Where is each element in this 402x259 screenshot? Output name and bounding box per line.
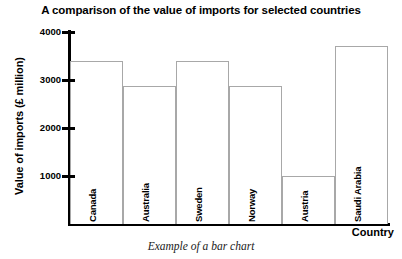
bar-chart-figure: A comparison of the value of imports for… (0, 0, 402, 259)
figure-caption: Example of a bar chart (0, 240, 402, 252)
y-axis-tick (62, 127, 75, 130)
bar[interactable]: Sweden (176, 61, 229, 224)
bar-category-label-text: Norway (247, 189, 257, 222)
bar-category-label: Norway (230, 142, 283, 222)
bar-category-label-text: Sweden (194, 187, 204, 222)
bar-category-label-text: Austria (300, 191, 310, 222)
bar[interactable]: Saudi Arabia (335, 46, 388, 224)
bar[interactable]: Canada (70, 61, 123, 224)
bar-category-label: Sweden (177, 142, 230, 222)
bar[interactable]: Norway (229, 86, 282, 224)
y-axis-tick-label: 2000 (40, 122, 61, 133)
y-axis-tick (62, 31, 75, 34)
bar-series: CanadaAustraliaSwedenNorwayAustriaSaudi … (70, 32, 388, 224)
y-axis-title: Value of imports (£ million) (13, 31, 25, 221)
bar-category-label-text: Saudi Arabia (353, 167, 363, 222)
bar-category-label-text: Canada (88, 189, 98, 222)
bar-category-label: Canada (71, 142, 124, 222)
bar-category-label: Saudi Arabia (336, 142, 389, 222)
y-axis-ticks: 1000200030004000 (0, 0, 61, 259)
bar[interactable]: Austria (282, 176, 335, 224)
y-axis-tick-label: 3000 (40, 74, 61, 85)
x-axis-title: Country (352, 226, 394, 238)
bar-category-label: Australia (124, 142, 177, 222)
bar-category-label: Austria (283, 142, 336, 222)
bar-category-label-text: Australia (141, 183, 151, 222)
y-axis-tick-label: 4000 (40, 26, 61, 37)
bar[interactable]: Australia (123, 86, 176, 224)
y-axis-tick (62, 175, 75, 178)
y-axis-tick (62, 79, 75, 82)
y-axis-tick-label: 1000 (40, 170, 61, 181)
